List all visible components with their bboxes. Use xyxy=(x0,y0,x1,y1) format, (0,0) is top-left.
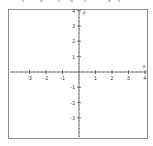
y-tick-label: 4 xyxy=(72,8,75,14)
y-tick-label: -1 xyxy=(71,84,76,90)
x-tick-label: -3 xyxy=(27,75,32,81)
x-tick-label: 4 xyxy=(144,75,147,81)
y-tick-label: 3 xyxy=(72,23,75,29)
x-axis-label: x xyxy=(142,63,146,69)
y-tick-label: 1 xyxy=(72,54,75,60)
y-tick-label: -2 xyxy=(71,100,76,106)
y-tick-label: -3 xyxy=(71,115,76,121)
x-tick-label: -2 xyxy=(44,75,49,81)
y-axis-label: y xyxy=(82,9,86,15)
x-tick-label: 3 xyxy=(127,75,130,81)
y-tick-label: 2 xyxy=(72,38,75,44)
coordinate-plane: -3-2-112344321-1-2-3xy xyxy=(0,0,153,146)
x-tick-label: 1 xyxy=(94,75,97,81)
x-tick-label: 2 xyxy=(111,75,114,81)
x-tick-label: -1 xyxy=(60,75,65,81)
